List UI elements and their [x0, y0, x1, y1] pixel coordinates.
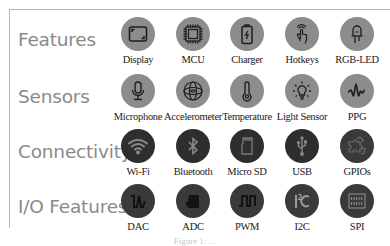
sensor-temperature: Temperature: [217, 74, 277, 122]
connectivity-usb: USB: [272, 129, 332, 177]
adc-wave-icon: [176, 184, 210, 218]
item-label: Light Sensor: [272, 111, 332, 122]
square-wave-icon: [230, 184, 264, 218]
item-label: Temperature: [217, 111, 277, 122]
row-title: Features: [18, 29, 96, 50]
led-icon: [340, 17, 374, 51]
spi-icon: [340, 184, 374, 218]
thermometer-icon: [230, 74, 264, 108]
item-label: USB: [272, 166, 332, 177]
item-label: DAC: [108, 221, 168, 232]
item-label: Microphone: [108, 111, 168, 122]
item-label: Micro SD: [217, 166, 277, 177]
item-label: ADC: [163, 221, 223, 232]
row-features: Features Display MCU Charger Hotkeys RGB…: [0, 17, 389, 72]
feature-mcu: MCU: [163, 17, 223, 65]
usb-icon: [285, 129, 319, 163]
item-label: RGB-LED: [327, 54, 387, 65]
feature-display: Display: [108, 17, 168, 65]
sensor-microphone: Microphone: [108, 74, 168, 122]
sensor-accelerometer: Accelerometer: [163, 74, 223, 122]
waveform-icon: [340, 74, 374, 108]
display-icon: [121, 17, 155, 51]
item-label: PPG: [327, 111, 387, 122]
sensor-light: Light Sensor: [272, 74, 332, 122]
item-label: Display: [108, 54, 168, 65]
connectivity-bluetooth: Bluetooth: [163, 129, 223, 177]
puzzle-icon: [340, 129, 374, 163]
row-connectivity: Connectivity Wi-Fi Bluetooth Micro SD US…: [0, 129, 389, 184]
bluetooth-icon: [176, 129, 210, 163]
io-pwm: PWM: [217, 184, 277, 232]
item-label: MCU: [163, 54, 223, 65]
item-label: Wi-Fi: [108, 166, 168, 177]
row-io-features: I/O Features DAC ADC PWM I2C SPI: [0, 184, 389, 239]
item-label: Hotkeys: [272, 54, 332, 65]
sd-card-icon: [230, 129, 264, 163]
i2c-icon: [285, 184, 319, 218]
feature-rgb-led: RGB-LED: [327, 17, 387, 65]
feature-hotkeys: Hotkeys: [272, 17, 332, 65]
dac-wave-icon: [121, 184, 155, 218]
touch-hand-icon: [285, 17, 319, 51]
connectivity-gpios: GPIOs: [327, 129, 387, 177]
io-spi: SPI: [327, 184, 387, 232]
item-label: GPIOs: [327, 166, 387, 177]
io-dac: DAC: [108, 184, 168, 232]
chip-icon: [176, 17, 210, 51]
item-label: Accelerometer: [163, 111, 223, 122]
sensor-ppg: PPG: [327, 74, 387, 122]
microphone-icon: [121, 74, 155, 108]
io-adc: ADC: [163, 184, 223, 232]
gyroscope-icon: [176, 74, 210, 108]
battery-charging-icon: [230, 17, 264, 51]
item-label: SPI: [327, 221, 387, 232]
wifi-icon: [121, 129, 155, 163]
figure-caption: Figure 1: ...: [0, 236, 389, 246]
item-label: Bluetooth: [163, 166, 223, 177]
feature-charger: Charger: [217, 17, 277, 65]
item-label: PWM: [217, 221, 277, 232]
connectivity-micro-sd: Micro SD: [217, 129, 277, 177]
row-title: Sensors: [18, 86, 90, 107]
item-label: I2C: [272, 221, 332, 232]
row-sensors: Sensors Microphone Accelerometer Tempera…: [0, 74, 389, 129]
io-i2c: I2C: [272, 184, 332, 232]
light-bulb-icon: [285, 74, 319, 108]
connectivity-wifi: Wi-Fi: [108, 129, 168, 177]
item-label: Charger: [217, 54, 277, 65]
